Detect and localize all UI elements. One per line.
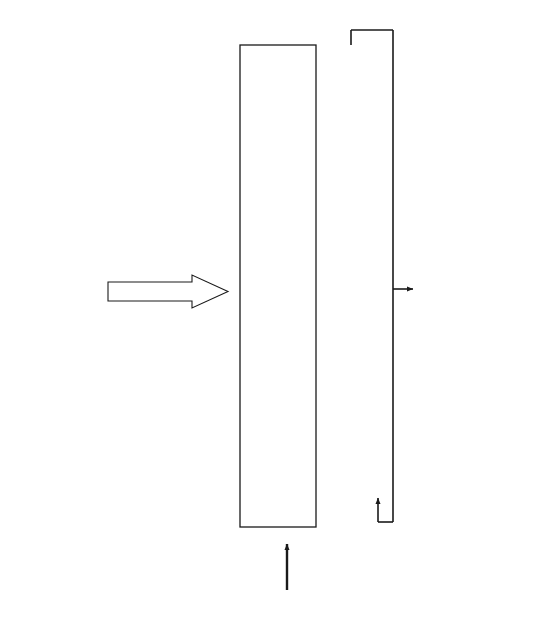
diagram-canvas: [0, 0, 555, 618]
input-arrow: [108, 275, 228, 308]
circuit-diagram-svg: [0, 0, 555, 618]
combiner-box: [240, 45, 316, 527]
feedback-bus: [351, 30, 393, 522]
